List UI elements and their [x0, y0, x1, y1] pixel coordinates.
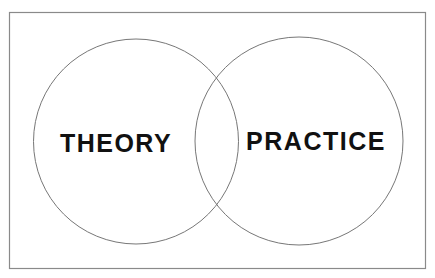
theory-label: THEORY [60, 129, 172, 157]
practice-label: PRACTICE [246, 127, 386, 155]
venn-diagram: THEORY PRACTICE [0, 0, 435, 278]
